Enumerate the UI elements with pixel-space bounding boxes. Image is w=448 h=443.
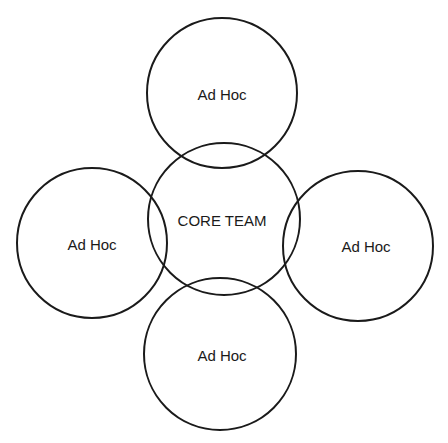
label-right-ad-hoc: Ad Hoc bbox=[341, 238, 391, 255]
diagram-canvas: Ad Hoc CORE TEAM Ad Hoc Ad Hoc Ad Hoc bbox=[0, 0, 448, 443]
label-left-ad-hoc: Ad Hoc bbox=[67, 236, 117, 253]
circles-diagram: Ad Hoc CORE TEAM Ad Hoc Ad Hoc Ad Hoc bbox=[0, 0, 448, 443]
label-top-ad-hoc: Ad Hoc bbox=[197, 86, 247, 103]
label-bottom-ad-hoc: Ad Hoc bbox=[197, 347, 247, 364]
label-core-team: CORE TEAM bbox=[178, 212, 267, 229]
